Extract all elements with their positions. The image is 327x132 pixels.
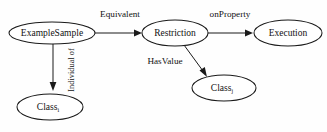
node-class-j[interactable]: Classj: [192, 75, 256, 101]
node-class-j-label: Classj: [211, 83, 234, 94]
ontology-graph: Equivalent Individual of onProperty HasV…: [0, 0, 327, 132]
edge-label-on-property: onProperty: [210, 9, 251, 19]
edge-on-property[interactable]: onProperty: [208, 9, 253, 36]
edge-has-value[interactable]: HasValue: [147, 45, 207, 77]
edge-equivalent[interactable]: Equivalent: [95, 9, 142, 36]
edge-on-property-arrowhead: [245, 30, 253, 37]
node-class-i[interactable]: Classi: [17, 94, 83, 120]
node-execution-label: Execution: [269, 28, 308, 38]
edge-individual-of[interactable]: Individual of: [50, 44, 76, 92]
node-example-sample-label: ExampleSample: [21, 28, 83, 38]
node-class-j-label-subscript: j: [230, 87, 233, 94]
edge-label-has-value: HasValue: [147, 56, 182, 66]
node-class-j-label-text: Class: [211, 83, 232, 93]
edge-label-equivalent: Equivalent: [100, 9, 140, 19]
edge-individual-of-arrowhead: [50, 82, 57, 91]
node-class-i-label-text: Class: [37, 102, 58, 112]
node-restriction[interactable]: Restriction: [142, 20, 208, 46]
node-restriction-label: Restriction: [154, 28, 196, 38]
node-execution[interactable]: Execution: [254, 20, 322, 46]
edge-has-value-line: [184, 45, 203, 71]
node-example-sample[interactable]: ExampleSample: [9, 22, 95, 44]
node-class-i-label: Classi: [37, 102, 60, 113]
edge-equivalent-arrowhead: [134, 30, 142, 37]
edge-label-individual-of: Individual of: [67, 48, 76, 92]
node-class-i-label-subscript: i: [57, 106, 59, 113]
diagram-canvas: Equivalent Individual of onProperty HasV…: [0, 0, 327, 132]
